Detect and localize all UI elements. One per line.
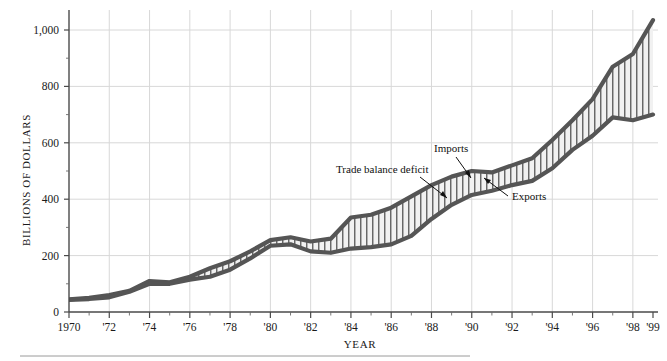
x-tick-label: '76 [183, 321, 197, 333]
annotation-trade-balance-deficit: Trade balance deficit [336, 163, 428, 175]
x-tick-label: 1970 [58, 321, 81, 333]
y-axis-title: BILLIONS OF DOLLARS [20, 114, 32, 246]
x-tick-label: '86 [384, 321, 398, 333]
y-tick-label: 400 [42, 193, 60, 205]
x-axis-title: YEAR [344, 338, 376, 350]
x-ticks-group: 1970'72'74'76'78'80'82'84'86'88'90'92'94… [58, 312, 661, 333]
band-and-series [69, 20, 653, 300]
x-tick-label: '90 [465, 321, 479, 333]
x-tick-label: '80 [264, 321, 278, 333]
x-tick-label: '98 [626, 321, 640, 333]
x-tick-label: '78 [223, 321, 237, 333]
grid-lines [69, 10, 658, 312]
x-tick-label: '84 [344, 321, 358, 333]
x-tick-label: '72 [102, 321, 116, 333]
y-tick-label: 600 [42, 137, 60, 149]
x-tick-label: '96 [586, 321, 600, 333]
trade-deficit-band [69, 20, 653, 300]
chart-svg: 02004006008001,000 1970'72'74'76'78'80'8… [0, 0, 667, 361]
x-tick-label: '82 [304, 321, 318, 333]
x-tick-label: '99 [646, 321, 660, 333]
x-tick-label: '94 [546, 321, 560, 333]
y-ticks-group: 02004006008001,000 [33, 24, 69, 318]
imports-line [69, 20, 653, 299]
axes-group [69, 10, 658, 312]
annotation-exports: Exports [512, 190, 546, 202]
y-tick-label: 200 [42, 250, 60, 262]
y-tick-label: 1,000 [33, 24, 59, 37]
annotation-imports: Imports [434, 142, 468, 154]
x-tick-label: '88 [425, 321, 439, 333]
trade-balance-chart: 02004006008001,000 1970'72'74'76'78'80'8… [0, 0, 667, 361]
x-tick-label: '74 [143, 321, 157, 333]
x-tick-label: '92 [505, 321, 519, 333]
y-tick-label: 800 [42, 80, 60, 92]
y-tick-label: 0 [53, 306, 59, 318]
